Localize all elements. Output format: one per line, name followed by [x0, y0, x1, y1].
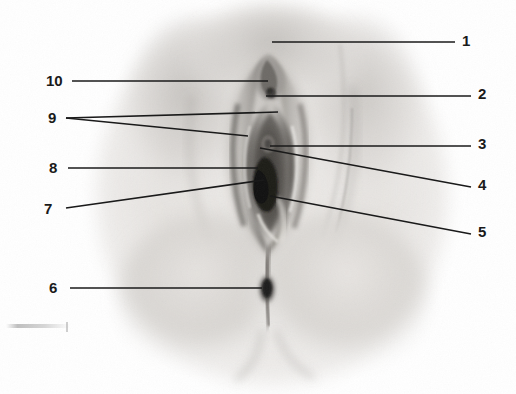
label-number-1[interactable]: 1: [462, 33, 470, 48]
label-number-8[interactable]: 8: [49, 160, 57, 175]
label-number-4[interactable]: 4: [478, 177, 486, 192]
label-number-10[interactable]: 10: [46, 73, 63, 88]
anatomical-figure: 1 2 3 4 5 10 9 8 7 6: [0, 0, 516, 394]
leader-line-7: [66, 180, 264, 208]
label-number-2[interactable]: 2: [478, 86, 486, 101]
leader-line-9a: [66, 112, 278, 118]
label-number-9[interactable]: 9: [48, 110, 56, 125]
label-number-5[interactable]: 5: [478, 224, 486, 239]
label-number-3[interactable]: 3: [478, 136, 486, 151]
leader-line-overlay: [0, 0, 516, 394]
label-number-7[interactable]: 7: [44, 201, 52, 216]
label-number-6[interactable]: 6: [49, 280, 57, 295]
leader-line-5: [270, 196, 471, 234]
leader-line-4: [260, 148, 471, 187]
leader-line-9b: [66, 118, 248, 136]
